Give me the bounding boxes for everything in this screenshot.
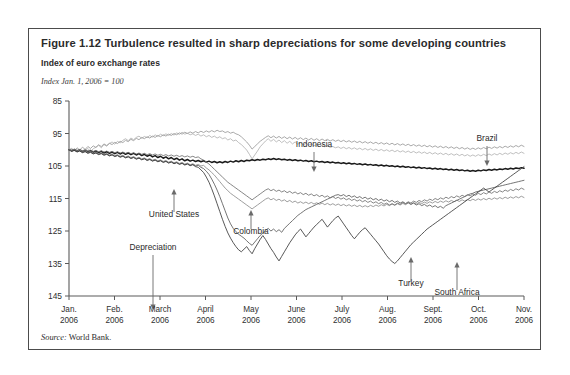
annotation-arrowhead-south-africa — [454, 262, 459, 268]
y-tick-label: 125 — [48, 226, 62, 236]
y-tick-label: 105 — [48, 161, 62, 171]
x-tick-label-month: May — [243, 305, 259, 314]
x-tick-label-month: Sept. — [423, 305, 442, 314]
x-tick-label-year: 2006 — [196, 316, 215, 325]
chart-axes — [65, 101, 524, 300]
x-tick-label-month: Feb. — [106, 305, 122, 314]
x-tick-label-year: 2006 — [469, 316, 488, 325]
annotation-arrowhead-colombia — [248, 210, 253, 216]
x-tick-label-year: 2006 — [333, 316, 352, 325]
source-note: Source: World Bank. — [41, 333, 111, 342]
x-tick-label-year: 2006 — [242, 316, 261, 325]
y-tick-label: 95 — [53, 129, 63, 139]
y-tick-label: 115 — [49, 194, 63, 204]
x-tick-label-month: April — [197, 305, 214, 314]
x-tick-label-year: 2006 — [424, 316, 443, 325]
x-tick-label-year: 2006 — [287, 316, 306, 325]
x-tick-label-month: Oct. — [471, 305, 486, 314]
source-value: World Bank. — [67, 333, 112, 342]
x-tick-label-month: Jan. — [61, 305, 76, 314]
annotation-label-indonesia: Indonesia — [296, 139, 333, 149]
series-line-united-states — [69, 150, 524, 171]
annotation-label-depreciation: Depreciation — [129, 242, 176, 252]
y-tick-label: 145 — [48, 291, 62, 301]
chart-plot-area: United StatesColombiaIndonesiaBrazilTurk… — [29, 29, 542, 351]
x-tick-label-year: 2006 — [60, 316, 79, 325]
source-label: Source: — [41, 333, 67, 342]
x-tick-label-month: Nov. — [516, 305, 532, 314]
annotation-arrowhead-turkey — [408, 257, 413, 263]
annotation-label-brazil: Brazil — [477, 133, 498, 143]
x-tick-label-year: 2006 — [378, 316, 397, 325]
figure-panel: Figure 1.12 Turbulence resulted in sharp… — [28, 28, 541, 350]
y-tick-label: 85 — [53, 96, 63, 106]
chart-annotations-group: United StatesColombiaIndonesiaBrazilTurk… — [129, 133, 497, 310]
annotation-arrowhead-indonesia — [311, 167, 316, 173]
x-tick-label-month: March — [149, 305, 172, 314]
x-axis-tick-labels: Jan.2006Feb.2006March2006April2006May200… — [60, 305, 534, 325]
series-line-turkey — [69, 150, 524, 246]
x-tick-label-month: July — [335, 305, 350, 314]
annotation-arrowhead-brazil — [484, 161, 489, 167]
y-tick-label: 135 — [48, 259, 62, 269]
x-tick-label-year: 2006 — [105, 316, 124, 325]
x-tick-label-month: June — [288, 305, 306, 314]
line-chart: United StatesColombiaIndonesiaBrazilTurk… — [29, 29, 542, 351]
annotation-arrowhead-united-states — [171, 189, 176, 195]
x-tick-label-year: 2006 — [515, 316, 534, 325]
x-tick-label-month: Aug. — [379, 305, 396, 314]
y-axis-tick-labels: 8595105115125135145 — [48, 96, 62, 301]
x-tick-label-year: 2006 — [151, 316, 170, 325]
